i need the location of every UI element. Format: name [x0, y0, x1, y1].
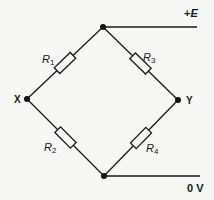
resistor-r2	[55, 127, 76, 148]
label-r4: R4	[146, 142, 159, 156]
label-supply: +E	[184, 7, 198, 19]
node-bottom	[101, 173, 107, 179]
node-y	[175, 97, 181, 103]
resistor-r1	[54, 53, 75, 74]
bridge-circuit-diagram: R1 R3 R2 R4 X Y +E 0 V	[0, 0, 214, 200]
label-r1: R1	[42, 53, 55, 67]
label-node-y: Y	[186, 95, 193, 106]
label-node-x: X	[14, 94, 21, 105]
label-r3: R3	[143, 51, 156, 65]
label-r2: R2	[44, 141, 57, 155]
node-x	[24, 96, 30, 102]
node-top	[100, 24, 106, 30]
label-ground: 0 V	[187, 182, 204, 194]
